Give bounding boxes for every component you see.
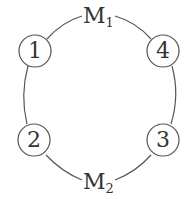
- circuit-diagram: 1 4 2 3 M1 M2: [0, 0, 189, 199]
- node-2-label: 2: [19, 125, 49, 155]
- node-3-label: 3: [148, 125, 178, 155]
- node-1-label: 1: [20, 36, 50, 66]
- node-4-label: 4: [148, 36, 178, 66]
- label-m1: M1: [83, 4, 114, 35]
- label-m2: M2: [83, 170, 114, 199]
